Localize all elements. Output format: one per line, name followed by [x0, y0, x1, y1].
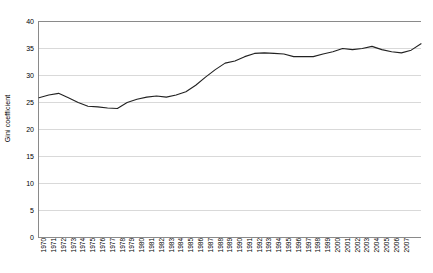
y-axis-title-label: Gini coefficient — [5, 95, 12, 142]
x-tick-label-1972: 1972 — [60, 238, 67, 252]
x-tick-label-1979: 1979 — [128, 238, 135, 252]
gini-coefficient-line-chart: Gini coefficient 0510152025303540 197019… — [0, 0, 433, 273]
x-tick-label-2005: 2005 — [383, 238, 390, 252]
x-tick-label-1970: 1970 — [40, 238, 47, 252]
x-tick-label-1997: 1997 — [305, 238, 312, 252]
x-tick-label-1987: 1987 — [207, 238, 214, 252]
y-tick-label-10: 10 — [26, 180, 34, 187]
x-tick-label-1998: 1998 — [314, 238, 321, 252]
x-tick-label-1983: 1983 — [168, 238, 175, 252]
x-tick-label-1984: 1984 — [177, 238, 184, 252]
y-axis-title: Gini coefficient — [0, 0, 16, 237]
x-tick-label-1988: 1988 — [217, 238, 224, 252]
x-tick-label-1992: 1992 — [256, 238, 263, 252]
y-tick-label-30: 30 — [26, 72, 34, 79]
y-tick-label-0: 0 — [30, 234, 34, 241]
x-tick-label-2003: 2003 — [363, 238, 370, 252]
x-tick-label-2006: 2006 — [393, 238, 400, 252]
y-tick-label-15: 15 — [26, 153, 34, 160]
plot-area — [38, 21, 421, 238]
x-tick-label-1977: 1977 — [109, 238, 116, 252]
y-tick-label-5: 5 — [30, 207, 34, 214]
x-tick-label-2001: 2001 — [344, 238, 351, 252]
x-tick-label-1996: 1996 — [295, 238, 302, 252]
x-tick-label-1994: 1994 — [275, 238, 282, 252]
y-tick-label-25: 25 — [26, 99, 34, 106]
x-tick-label-1978: 1978 — [119, 238, 126, 252]
x-tick-label-1991: 1991 — [246, 238, 253, 252]
x-tick-label-2000: 2000 — [334, 238, 341, 252]
x-tick-label-1989: 1989 — [226, 238, 233, 252]
x-tick-label-2002: 2002 — [354, 238, 361, 252]
x-tick-label-1999: 1999 — [324, 238, 331, 252]
y-tick-label-40: 40 — [26, 18, 34, 25]
x-axis-tick-labels: 1970197119721973197419751976197719781979… — [38, 238, 420, 273]
y-tick-label-35: 35 — [26, 45, 34, 52]
x-tick-label-1981: 1981 — [148, 238, 155, 252]
x-tick-label-1985: 1985 — [187, 238, 194, 252]
x-tick-label-1974: 1974 — [79, 238, 86, 252]
x-tick-label-1990: 1990 — [236, 238, 243, 252]
x-tick-label-1993: 1993 — [265, 238, 272, 252]
y-axis-tick-labels: 0510152025303540 — [16, 0, 36, 250]
y-tick-label-20: 20 — [26, 126, 34, 133]
x-tick-label-2004: 2004 — [373, 238, 380, 252]
x-tick-label-2007: 2007 — [403, 238, 410, 252]
x-tick-label-1976: 1976 — [99, 238, 106, 252]
x-tick-label-1986: 1986 — [197, 238, 204, 252]
x-tick-label-1980: 1980 — [138, 238, 145, 252]
x-tick-label-1975: 1975 — [89, 238, 96, 252]
x-tick-label-1982: 1982 — [158, 238, 165, 252]
x-tick-label-1995: 1995 — [285, 238, 292, 252]
series-line-gini-coefficient — [39, 21, 421, 237]
x-tick-label-1971: 1971 — [50, 238, 57, 252]
x-tick-label-1973: 1973 — [70, 238, 77, 252]
